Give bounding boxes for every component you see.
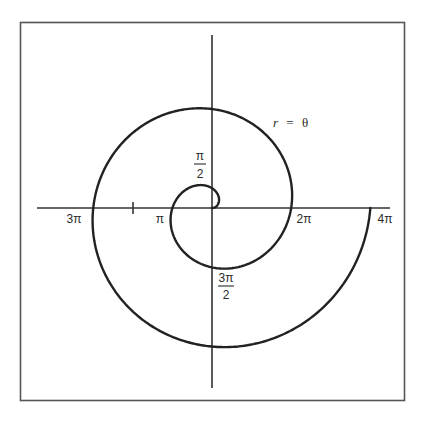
label-3pi-over-2-numerator: 3π xyxy=(219,271,234,285)
equation-r: r xyxy=(273,115,279,130)
label-3pi-over-2: 3π 2 xyxy=(218,271,234,302)
label-pi-over-2: π 2 xyxy=(194,149,206,181)
label-4pi: 4π xyxy=(378,212,393,226)
equation-label: r = θ xyxy=(273,115,308,130)
equation-theta: θ xyxy=(302,115,308,130)
label-3pi-over-2-denominator: 2 xyxy=(223,288,230,302)
spiral-curve xyxy=(93,108,371,347)
equation-equals: = xyxy=(286,115,293,130)
label-pi: π xyxy=(156,212,164,226)
label-3pi: 3π xyxy=(67,212,82,226)
label-2pi: 2π xyxy=(297,212,312,226)
polar-spiral-figure: r = θ π 2 3π 2 π 3π 2π 4π xyxy=(0,0,425,423)
label-pi-over-2-denominator: 2 xyxy=(197,167,204,181)
label-pi-over-2-numerator: π xyxy=(196,149,204,163)
